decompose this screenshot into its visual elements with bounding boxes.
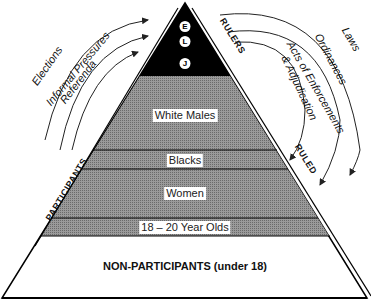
apex-letter-e: E — [180, 21, 191, 32]
band-blacks: Blacks — [167, 154, 203, 167]
apex-letter-l: L — [180, 36, 191, 47]
band-18-20-year-olds: 18 – 20 Year Olds — [139, 221, 230, 234]
band-white-males: White Males — [153, 109, 218, 122]
apex-letter-j: J — [180, 58, 191, 69]
band-women: Women — [164, 187, 206, 200]
non-participants-label: NON-PARTICIPANTS (under 18) — [103, 260, 267, 272]
